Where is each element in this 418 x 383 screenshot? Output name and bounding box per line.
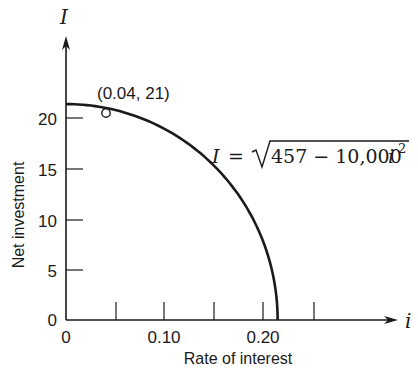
curve-equation: I = 457 − 10,000 i 2 <box>211 141 409 167</box>
y-tick-label-5: 5 <box>48 262 57 281</box>
y-axis-title: Net investment <box>10 161 27 268</box>
equation-variable: i <box>388 145 394 167</box>
x-tick-label-0: 0 <box>61 328 70 347</box>
x-axis-title: Rate of interest <box>184 350 293 367</box>
y-tick-label-15: 15 <box>38 161 57 180</box>
point-annotation: (0.04, 21) <box>97 84 170 103</box>
x-ticks <box>116 302 314 320</box>
equation-equals: = <box>228 145 244 167</box>
equation-radicand: 457 − 10,000 <box>271 145 402 167</box>
y-tick-label-0: 0 <box>48 311 57 330</box>
point-marker-icon <box>102 109 110 117</box>
x-tick-label-0-20: 0.20 <box>246 328 279 347</box>
x-axis-symbol: i <box>405 309 411 333</box>
investment-chart: I i 20 15 10 5 0 0 0.10 0.20 Rate of int… <box>0 0 418 383</box>
y-tick-label-20: 20 <box>38 110 57 129</box>
y-ticks <box>66 118 83 270</box>
equation-lhs: I <box>211 145 220 167</box>
investment-curve <box>66 104 278 320</box>
y-axis-symbol: I <box>59 5 69 29</box>
y-tick-label-10: 10 <box>38 212 57 231</box>
x-tick-label-0-10: 0.10 <box>147 328 180 347</box>
equation-exponent: 2 <box>398 141 406 156</box>
